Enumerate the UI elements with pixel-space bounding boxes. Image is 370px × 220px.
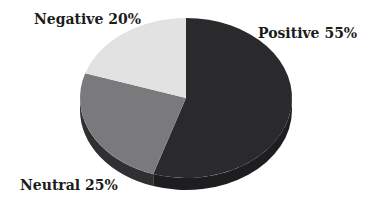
- pie-slices: [80, 18, 292, 178]
- label-positive: Positive 55%: [258, 25, 357, 41]
- label-negative: Negative 20%: [34, 11, 141, 27]
- label-neutral: Neutral 25%: [20, 177, 118, 193]
- pie-chart: Positive 55%Neutral 25%Negative 20%: [0, 0, 370, 220]
